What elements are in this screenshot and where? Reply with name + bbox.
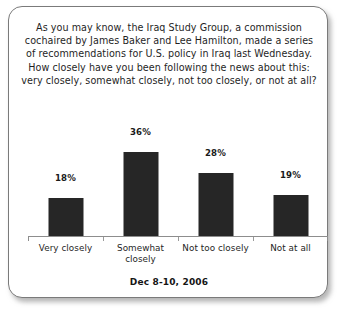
bar-column: 28% — [178, 125, 253, 237]
x-axis-tick — [103, 237, 104, 241]
bar-column: 18% — [28, 125, 103, 237]
x-axis-tick — [178, 237, 179, 241]
x-axis-category-labels: Very closely Somewhat closely Not too cl… — [28, 243, 328, 275]
bar-slot: 28% — [178, 125, 253, 237]
x-axis-label-not-at-all: Not at all — [253, 243, 328, 254]
bar-slot: 18% — [28, 125, 103, 237]
bar-value-label: 36% — [130, 127, 151, 137]
x-axis-left-cap — [28, 236, 29, 241]
bar-slot: 36% — [103, 125, 178, 237]
poll-result-card: As you may know, the Iraq Study Group, a… — [8, 6, 328, 298]
bar-value-label: 18% — [55, 173, 76, 183]
bar-value-label: 28% — [205, 148, 226, 158]
x-axis-label-very-closely: Very closely — [28, 243, 103, 254]
bar-column: 19% — [253, 125, 328, 237]
bar-value-label: 19% — [280, 170, 301, 180]
x-axis-right-cap — [327, 236, 328, 241]
bar-column: 36% — [103, 125, 178, 237]
x-axis-tick — [253, 237, 254, 241]
bar-rect — [123, 152, 158, 237]
poll-date-footer: Dec 8-10, 2006 — [9, 277, 329, 287]
bar-rect — [198, 173, 233, 237]
poll-question-text: As you may know, the Iraq Study Group, a… — [21, 21, 317, 87]
x-axis-label-not-too-closely: Not too closely — [178, 243, 253, 254]
x-axis-label-somewhat-closely: Somewhat closely — [103, 243, 178, 266]
bar-rect — [48, 198, 83, 237]
bar-chart-plot: 18% 36% 28% 19% — [9, 125, 329, 237]
bar-rect — [273, 195, 308, 237]
bar-slot: 19% — [253, 125, 328, 237]
